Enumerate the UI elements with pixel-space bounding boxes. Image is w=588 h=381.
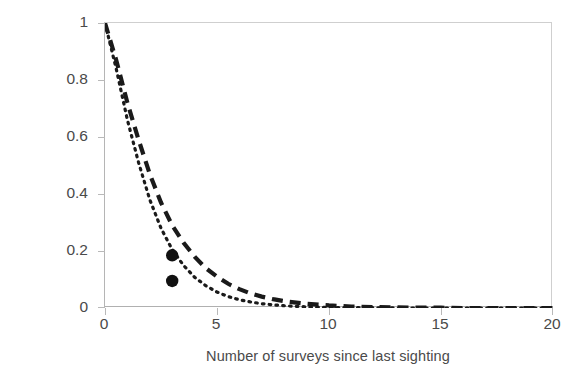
plot-area bbox=[104, 22, 552, 307]
chart-figure: Probability bottleweed present 1 0.8 0.6… bbox=[0, 0, 588, 381]
x-axis-title: Number of surveys since last sighting bbox=[104, 348, 552, 364]
x-tick-label: 5 bbox=[212, 315, 221, 333]
y-tick-mark bbox=[98, 194, 105, 195]
marker-upper bbox=[166, 249, 178, 261]
dashed-curve bbox=[105, 23, 553, 308]
x-tick-mark bbox=[441, 308, 442, 315]
y-tick-mark bbox=[98, 307, 105, 308]
x-tick-mark bbox=[329, 308, 330, 315]
x-tick-mark bbox=[105, 308, 106, 315]
x-tick-mark bbox=[217, 308, 218, 315]
marker-lower bbox=[166, 275, 178, 287]
dotted-curve bbox=[105, 23, 553, 308]
data-point-markers bbox=[166, 249, 178, 287]
y-tick-mark bbox=[98, 80, 105, 81]
x-tick-label: 20 bbox=[543, 315, 560, 333]
y-tick-mark bbox=[98, 23, 105, 24]
x-tick-label: 0 bbox=[100, 315, 109, 333]
x-tick-mark bbox=[552, 308, 553, 315]
y-tick-mark bbox=[98, 251, 105, 252]
x-tick-label: 10 bbox=[319, 315, 336, 333]
curve-canvas bbox=[105, 23, 553, 308]
y-tick-mark bbox=[98, 137, 105, 138]
x-tick-label: 15 bbox=[431, 315, 448, 333]
